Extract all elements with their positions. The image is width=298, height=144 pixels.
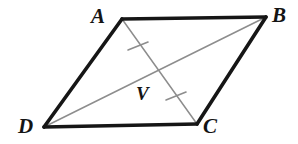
side-da xyxy=(44,19,122,127)
diagonal-ac xyxy=(122,19,197,124)
geometry-canvas xyxy=(0,0,298,144)
side-cd xyxy=(44,124,197,127)
side-ab xyxy=(122,17,266,19)
diagonal-group xyxy=(44,17,266,127)
vertex-label-a: A xyxy=(91,6,105,27)
geometry-figure: A B C D V xyxy=(0,0,298,144)
vertex-label-b: B xyxy=(272,5,286,26)
vertex-label-v: V xyxy=(136,84,149,103)
tick-mark-vc xyxy=(166,92,186,100)
side-bc xyxy=(197,17,266,124)
diagonal-db xyxy=(44,17,266,127)
vertex-label-c: C xyxy=(203,116,217,137)
vertex-label-d: D xyxy=(18,116,33,137)
tick-mark-av xyxy=(128,42,148,50)
